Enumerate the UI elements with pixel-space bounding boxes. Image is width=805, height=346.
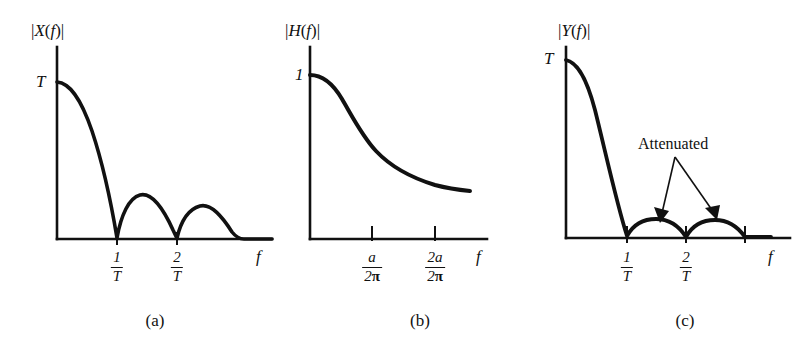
x-tick-label-1-c: 1 T xyxy=(621,250,633,285)
x-tick-label-1-c-denominator: T xyxy=(621,267,633,285)
panel-c: |Y(f)| T f Attenuated 1 T 2 T (c) xyxy=(535,0,805,346)
panel-caption-b: (b) xyxy=(390,311,450,331)
attenuated-leader-right xyxy=(675,157,712,210)
y-axis-label-a: |X(f)| xyxy=(31,22,64,39)
x-tick-label-2-b: 2a 2π xyxy=(425,250,445,285)
x-tick-label-1-a-numerator: 1 xyxy=(111,250,123,267)
y-axis-label-c: |Y(f)| xyxy=(558,22,590,39)
x-tick-label-1-a-denominator: T xyxy=(111,267,123,285)
x-tick-label-2-b-denominator: 2π xyxy=(425,267,445,285)
x-tick-label-1-c-numerator: 1 xyxy=(621,250,633,267)
x-tick-label-2-a-numerator: 2 xyxy=(171,250,183,267)
x-axis-label-a: f xyxy=(256,248,261,265)
attenuated-arrowhead-right xyxy=(705,205,720,220)
figure-root: |X(f)| T f 1 T 2 T (a) |H(f)| 1 f xyxy=(0,0,805,346)
x-axis-label-c: f xyxy=(768,248,773,265)
x-axis-label-b: f xyxy=(476,248,481,265)
spectrum-curve-a xyxy=(57,82,272,239)
panel-caption-c: (c) xyxy=(655,311,715,331)
panel-caption-a: (a) xyxy=(125,311,185,331)
x-tick-label-2-a: 2 T xyxy=(171,250,183,285)
y-value-label-c: T xyxy=(544,50,553,67)
attenuated-leader-left xyxy=(662,157,675,213)
x-tick-label-2-a-denominator: T xyxy=(171,267,183,285)
panel-b-plot xyxy=(280,0,535,346)
panel-b: |H(f)| 1 f a 2π 2a 2π (b) xyxy=(280,0,535,346)
y-value-label-b: 1 xyxy=(295,66,304,83)
x-tick-label-1-b: a 2π xyxy=(362,250,382,285)
x-tick-label-2-c: 2 T xyxy=(680,250,692,285)
panel-a: |X(f)| T f 1 T 2 T (a) xyxy=(0,0,280,346)
x-tick-label-1-b-numerator: a xyxy=(362,250,382,267)
panel-a-plot xyxy=(0,0,280,346)
y-value-label-a: T xyxy=(36,73,45,90)
x-tick-label-2-b-numerator: 2a xyxy=(425,250,445,267)
y-axis-label-b: |H(f)| xyxy=(285,22,320,39)
x-tick-label-1-a: 1 T xyxy=(111,250,123,285)
attenuated-annotation-label: Attenuated xyxy=(638,136,708,152)
panel-c-plot xyxy=(535,0,805,346)
x-tick-label-1-b-denominator: 2π xyxy=(362,267,382,285)
filter-response-curve-b xyxy=(310,75,470,191)
x-tick-label-2-c-numerator: 2 xyxy=(680,250,692,267)
x-tick-label-2-c-denominator: T xyxy=(680,267,692,285)
